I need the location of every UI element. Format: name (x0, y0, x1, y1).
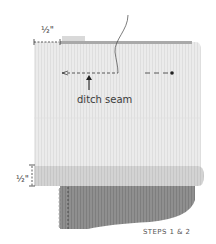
ditch-seam-label: ditch seam (77, 94, 132, 105)
side-measure-label: ½" (16, 174, 29, 184)
fabric-panel-backing (59, 186, 195, 229)
binding-band (34, 166, 204, 186)
fabric-panel-top (34, 42, 201, 168)
sewing-diagram: ½" ditch seam ½" STEPS 1 & 2 (0, 0, 216, 244)
side-measure: ½" (16, 165, 35, 186)
steps-caption: STEPS 1 & 2 (143, 228, 190, 236)
needle-point-icon (170, 71, 174, 75)
top-measure-label: ½" (41, 25, 54, 35)
fabric-top-edge (60, 36, 192, 44)
